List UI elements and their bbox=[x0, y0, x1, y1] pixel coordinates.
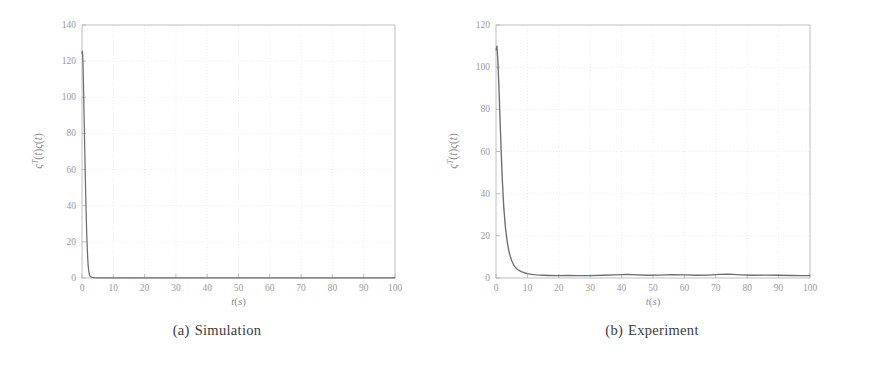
y-tick-label: 20 bbox=[67, 237, 77, 247]
x-tick-label: 70 bbox=[296, 283, 306, 293]
y-tick-label: 100 bbox=[476, 62, 491, 72]
x-tick-label: 100 bbox=[803, 283, 818, 293]
y-tick-label: 80 bbox=[481, 104, 491, 114]
x-tick-label: 50 bbox=[648, 283, 658, 293]
x-tick-label: 0 bbox=[494, 283, 499, 293]
y-tick-label: 140 bbox=[62, 20, 77, 30]
plot-area-a: 0 20 40 60 80 100 120 140 0 10 20 30 40 … bbox=[0, 0, 434, 310]
y-tick-label: 120 bbox=[476, 20, 491, 30]
x-tick-label: 80 bbox=[742, 283, 752, 293]
panel-caption-b: (b)Experiment bbox=[435, 322, 869, 339]
x-axis-label-a: t(s) bbox=[231, 295, 246, 308]
x-tick-label: 40 bbox=[617, 283, 627, 293]
y-tick-label: 40 bbox=[67, 201, 77, 211]
x-tick-label: 10 bbox=[523, 283, 533, 293]
y-tick-label: 60 bbox=[481, 147, 491, 157]
x-tick-label: 20 bbox=[554, 283, 564, 293]
plot-area-b: 0 20 40 60 80 100 120 0 10 20 30 40 50 6… bbox=[435, 0, 869, 310]
x-tick-label: 90 bbox=[774, 283, 784, 293]
y-tick-label: 20 bbox=[481, 231, 491, 241]
y-axis-label-b: ςT(t)ς(t) bbox=[446, 133, 460, 169]
y-tick-label: 0 bbox=[71, 273, 76, 283]
gridlines-a bbox=[82, 25, 395, 278]
x-tick-label: 60 bbox=[680, 283, 690, 293]
y-tick-labels-a: 0 20 40 60 80 100 120 140 bbox=[62, 20, 77, 283]
x-axis-label-b: t(s) bbox=[646, 295, 661, 308]
x-tick-label: 10 bbox=[109, 283, 119, 293]
chart-simulation: 0 20 40 60 80 100 120 140 0 10 20 30 40 … bbox=[0, 0, 434, 310]
x-tick-label: 50 bbox=[234, 283, 244, 293]
x-tick-label: 70 bbox=[711, 283, 721, 293]
x-tick-label: 90 bbox=[359, 283, 369, 293]
x-tick-labels-a: 0 10 20 30 40 50 60 70 80 90 100 bbox=[80, 283, 403, 293]
y-tick-label: 100 bbox=[62, 92, 77, 102]
x-tick-label: 0 bbox=[80, 283, 85, 293]
y-tick-label: 80 bbox=[67, 128, 77, 138]
figure-panel-a: 0 20 40 60 80 100 120 140 0 10 20 30 40 … bbox=[0, 0, 434, 372]
x-tick-labels-b: 0 10 20 30 40 50 60 70 80 90 100 bbox=[494, 283, 818, 293]
figure-container: 0 20 40 60 80 100 120 140 0 10 20 30 40 … bbox=[0, 0, 869, 372]
x-tick-label: 100 bbox=[388, 283, 403, 293]
y-tick-labels-b: 0 20 40 60 80 100 120 bbox=[476, 20, 491, 283]
x-tick-label: 30 bbox=[171, 283, 181, 293]
x-tick-label: 80 bbox=[328, 283, 338, 293]
chart-experiment: 0 20 40 60 80 100 120 0 10 20 30 40 50 6… bbox=[435, 0, 869, 310]
y-tick-label: 60 bbox=[67, 165, 77, 175]
x-tick-label: 40 bbox=[202, 283, 212, 293]
caption-text-b: Experiment bbox=[628, 322, 699, 338]
y-tick-label: 120 bbox=[62, 56, 77, 66]
panel-caption-a: (a)Simulation bbox=[0, 322, 434, 339]
caption-text-a: Simulation bbox=[195, 322, 262, 338]
y-tick-label: 0 bbox=[485, 273, 490, 283]
caption-tag-a: (a) bbox=[173, 322, 190, 338]
figure-panel-b: 0 20 40 60 80 100 120 0 10 20 30 40 50 6… bbox=[435, 0, 869, 372]
x-tick-label: 20 bbox=[140, 283, 150, 293]
caption-tag-b: (b) bbox=[605, 322, 623, 338]
y-tick-label: 40 bbox=[481, 189, 491, 199]
gridlines-b bbox=[496, 25, 810, 278]
y-axis-label-a: ςT(t)ς(t) bbox=[31, 133, 45, 169]
x-tick-label: 60 bbox=[265, 283, 275, 293]
x-tick-label: 30 bbox=[585, 283, 595, 293]
